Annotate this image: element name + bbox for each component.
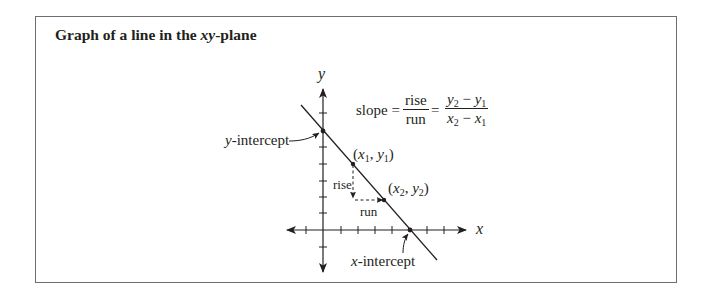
x-intercept-point (408, 228, 413, 233)
point-2-x-sub: 2 (400, 187, 405, 198)
x-axis (287, 226, 466, 234)
den-x1-sub: 1 (481, 117, 486, 128)
rise-label: rise (333, 178, 352, 191)
fraction-rise-over-run: rise run (403, 93, 429, 127)
point-1-y: y (377, 146, 384, 162)
point-2-y: y (412, 180, 419, 196)
fraction-coordinates: y2 − y1 x2 − x1 (445, 92, 488, 126)
point-1-label: (x1, y1) (353, 147, 394, 162)
y-axis-label: y (318, 66, 325, 82)
x-intercept-text: -intercept (358, 253, 415, 269)
y-intercept-arrow (289, 133, 319, 141)
num-y2: y (447, 91, 454, 107)
point-1-x-sub: 1 (365, 153, 370, 164)
fraction-denominator: x2 − x1 (445, 109, 488, 126)
fraction-run: run (404, 110, 428, 127)
num-y1-sub: 1 (481, 98, 486, 109)
den-minus: − (459, 110, 475, 126)
formula-equals-2: = (431, 103, 439, 118)
point-1-y-sub: 1 (384, 153, 389, 164)
y-intercept-var: y (225, 132, 232, 148)
point-2-y-sub: 2 (419, 187, 424, 198)
x-intercept-arrow (403, 234, 408, 253)
y-intercept-point (321, 129, 326, 134)
point-2-label: (x2, y2) (388, 181, 429, 196)
num-minus: − (459, 91, 475, 107)
x-intercept-var: x (351, 253, 358, 269)
fraction-numerator: y2 − y1 (445, 92, 488, 109)
x-axis-label: x (476, 221, 483, 237)
point-2-dot (382, 198, 386, 202)
fraction-rise: rise (403, 93, 429, 110)
x-intercept-label: x-intercept (351, 254, 415, 269)
den-x2: x (447, 110, 454, 126)
y-intercept-text: -intercept (232, 132, 289, 148)
formula-lhs: slope = (356, 103, 400, 118)
point-2-x: x (393, 180, 400, 196)
point-1-x: x (358, 146, 365, 162)
y-intercept-label: y-intercept (225, 133, 289, 148)
y-axis (319, 89, 327, 272)
point-1-dot (351, 162, 355, 166)
run-label: run (360, 205, 377, 218)
